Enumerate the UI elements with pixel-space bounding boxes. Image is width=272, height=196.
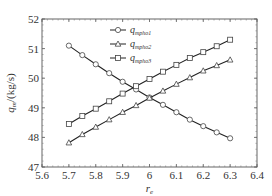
y-tick-label: 48 — [28, 131, 40, 143]
circle-marker — [201, 124, 206, 129]
triangle-marker — [80, 131, 86, 136]
circle-marker — [187, 117, 192, 122]
series-q_mpho2 — [66, 57, 233, 145]
x-tick-label: 5.7 — [62, 169, 76, 181]
y-tick-label: 51 — [28, 43, 39, 55]
circle-marker — [120, 79, 125, 84]
y-axis-label: qm/(kg/s) — [4, 73, 18, 113]
square-marker — [214, 44, 219, 49]
series-q_mpho3 — [66, 37, 232, 126]
circle-legend-icon — [115, 27, 120, 32]
circle-marker — [80, 53, 85, 58]
y-tick-label: 49 — [28, 102, 40, 114]
legend-label: qmpho3 — [130, 52, 151, 64]
square-marker — [174, 62, 179, 67]
legend-label: qmpho1 — [130, 24, 151, 36]
circle-marker — [174, 110, 179, 115]
x-tick-label: 6.1 — [170, 169, 184, 181]
legend-item-q_mpho2: qmpho2 — [110, 38, 151, 50]
triangle-marker — [106, 117, 112, 122]
square-marker — [201, 50, 206, 55]
circle-marker — [93, 62, 98, 67]
plot-border — [42, 19, 257, 167]
triangle-marker — [93, 124, 99, 129]
y-tick-label: 50 — [28, 72, 40, 84]
square-marker — [160, 69, 165, 74]
legend-item-q_mpho3: qmpho3 — [110, 52, 151, 64]
square-marker — [228, 37, 233, 42]
square-marker — [134, 84, 139, 89]
x-tick-label: 5.6 — [35, 169, 49, 181]
x-tick-label: 6.2 — [196, 169, 210, 181]
y-tick-label: 52 — [28, 13, 39, 25]
legend-item-q_mpho1: qmpho1 — [110, 24, 151, 36]
x-tick-label: 5.9 — [116, 169, 130, 181]
legend: qmpho1qmpho2qmpho3 — [110, 24, 151, 64]
square-marker — [80, 114, 85, 119]
circle-marker — [228, 136, 233, 141]
legend-label: qmpho2 — [130, 38, 151, 50]
square-marker — [147, 77, 152, 82]
triangle-marker — [133, 102, 139, 107]
x-tick-label: 5.8 — [89, 169, 103, 181]
triangle-marker — [66, 140, 72, 145]
line-chart: 474849505152 5.65.75.85.966.16.26.36.4 q… — [0, 0, 272, 196]
triangle-marker — [227, 57, 233, 62]
square-marker — [107, 99, 112, 104]
x-axis-label: re — [146, 182, 153, 196]
x-tick-label: 6.4 — [250, 169, 264, 181]
square-marker — [187, 56, 192, 61]
series-layer — [66, 37, 233, 145]
x-tick-label: 6.3 — [223, 169, 237, 181]
square-marker — [93, 106, 98, 111]
circle-marker — [160, 102, 165, 107]
square-marker — [66, 122, 71, 127]
circle-marker — [214, 130, 219, 135]
circle-marker — [107, 71, 112, 76]
circle-marker — [66, 43, 71, 48]
x-tick-label: 6 — [147, 169, 153, 181]
square-legend-icon — [116, 56, 121, 61]
plot-frame — [42, 19, 257, 167]
square-marker — [120, 91, 125, 96]
